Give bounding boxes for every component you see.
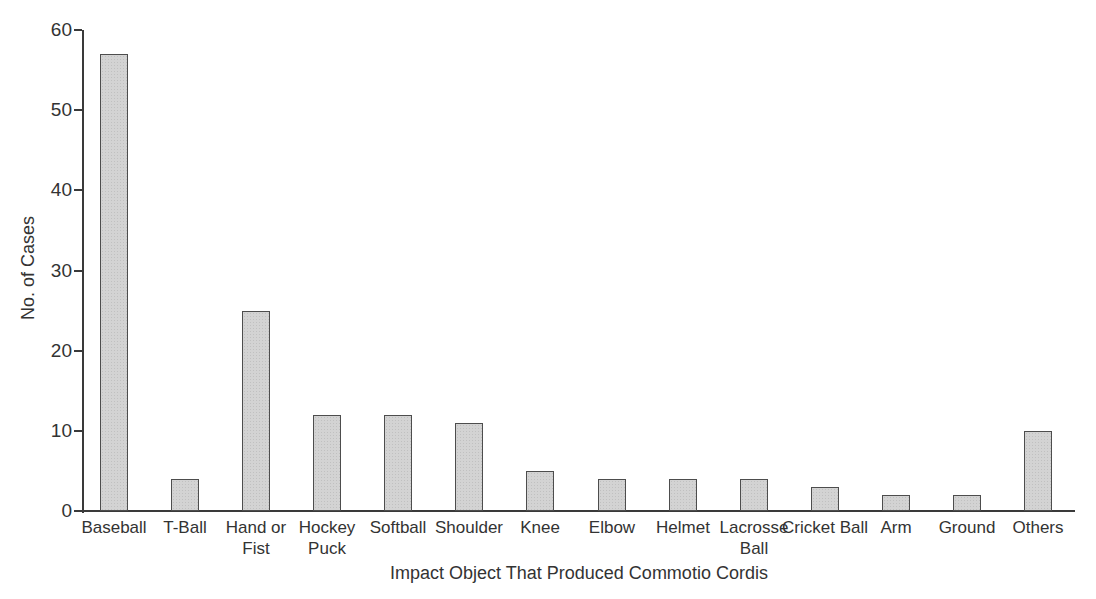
y-tick-label-40: 40 [26, 179, 72, 201]
y-tick-label-20: 20 [26, 340, 72, 362]
y-tick-30 [74, 270, 82, 272]
commotio-cordis-bar-chart: No. of Cases 0102030405060BaseballT-Ball… [0, 0, 1096, 599]
plot-area: 0102030405060BaseballT-BallHand or FistH… [0, 0, 1096, 599]
y-tick-label-60: 60 [26, 19, 72, 41]
bar-baseball [100, 54, 128, 511]
bar-others [1024, 431, 1052, 511]
y-tick-label-0: 0 [26, 500, 72, 522]
y-tick-50 [74, 109, 82, 111]
y-tick-20 [74, 350, 82, 352]
y-tick-label-10: 10 [26, 420, 72, 442]
x-axis-title: Impact Object That Produced Commotio Cor… [83, 563, 1075, 584]
bar-shoulder [455, 423, 483, 511]
bar-arm [882, 495, 910, 511]
x-axis-line [74, 510, 1075, 512]
bar-elbow [598, 479, 626, 511]
bar-ground [953, 495, 981, 511]
bar-knee [526, 471, 554, 511]
y-tick-label-30: 30 [26, 260, 72, 282]
x-category-label-others: Others [994, 517, 1082, 538]
bar-hand-or-fist [242, 311, 270, 511]
bar-hockey-puck [313, 415, 341, 511]
bar-softball [384, 415, 412, 511]
y-tick-label-50: 50 [26, 99, 72, 121]
y-tick-10 [74, 430, 82, 432]
bar-t-ball [171, 479, 199, 511]
y-tick-60 [74, 29, 82, 31]
y-tick-0 [74, 510, 82, 512]
bar-cricket-ball [811, 487, 839, 511]
bar-helmet [669, 479, 697, 511]
y-axis-line [82, 30, 84, 513]
y-tick-40 [74, 189, 82, 191]
bar-lacrosse-ball [740, 479, 768, 511]
